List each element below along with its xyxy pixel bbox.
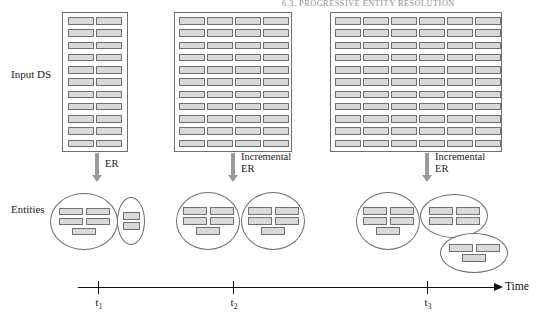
record-box xyxy=(263,17,289,25)
record-box xyxy=(363,42,389,50)
record-box xyxy=(96,17,122,25)
record-box xyxy=(391,115,417,123)
record-box xyxy=(419,54,445,62)
record-box xyxy=(59,208,83,216)
record-box xyxy=(391,103,417,111)
entity-records xyxy=(421,195,487,237)
entity-group-t3-1 xyxy=(356,192,420,250)
record-box xyxy=(391,127,417,135)
arrow-shaft xyxy=(95,153,98,175)
record-box xyxy=(475,17,501,25)
dataset-column xyxy=(446,17,474,147)
entity-record-row xyxy=(363,217,414,225)
record-box xyxy=(235,115,261,123)
record-box xyxy=(72,228,96,236)
record-box xyxy=(363,140,389,148)
record-box xyxy=(391,54,417,62)
record-box xyxy=(235,42,261,50)
record-box xyxy=(391,42,417,50)
record-box xyxy=(447,115,473,123)
arrow-head-icon xyxy=(422,175,432,182)
record-box xyxy=(335,17,361,25)
entity-record-row xyxy=(429,207,480,215)
record-box xyxy=(235,91,261,99)
dataset-column xyxy=(234,17,262,147)
entity-record-row xyxy=(363,207,414,215)
record-box xyxy=(391,29,417,37)
entity-record-row xyxy=(248,207,299,215)
dataset-column xyxy=(362,17,390,147)
entity-records xyxy=(177,193,239,249)
record-box xyxy=(447,66,473,74)
record-box xyxy=(179,91,205,99)
record-box xyxy=(456,217,480,225)
record-box xyxy=(207,42,233,50)
figure-progressive-entity-resolution: 6.3. PROGRESSIVE ENTITY RESOLUTION Input… xyxy=(0,0,539,321)
record-box xyxy=(391,66,417,74)
record-box xyxy=(207,29,233,37)
record-box xyxy=(96,91,122,99)
record-box xyxy=(183,207,207,215)
record-box xyxy=(235,66,261,74)
record-box xyxy=(335,42,361,50)
record-box xyxy=(335,91,361,99)
record-box xyxy=(447,17,473,25)
record-box xyxy=(96,29,122,37)
record-box xyxy=(335,78,361,86)
record-box xyxy=(475,54,501,62)
timeline-tick-label-t2: t2 xyxy=(231,296,238,311)
record-box xyxy=(207,140,233,148)
record-box xyxy=(391,78,417,86)
record-box xyxy=(447,103,473,111)
dataset-column xyxy=(418,17,446,147)
record-box xyxy=(179,103,205,111)
record-box xyxy=(419,17,445,25)
timeline-tick-t3 xyxy=(427,281,428,294)
record-box xyxy=(96,115,122,123)
record-box xyxy=(207,115,233,123)
record-box xyxy=(335,103,361,111)
record-box xyxy=(447,91,473,99)
record-box xyxy=(96,54,122,62)
record-box xyxy=(447,54,473,62)
record-box xyxy=(96,103,122,111)
record-box xyxy=(248,217,272,225)
record-box xyxy=(462,254,486,262)
record-box xyxy=(207,17,233,25)
record-box xyxy=(68,78,94,86)
record-box xyxy=(207,78,233,86)
record-box xyxy=(363,103,389,111)
record-box xyxy=(419,140,445,148)
record-box xyxy=(390,217,414,225)
record-box xyxy=(475,66,501,74)
entity-record-row xyxy=(123,212,140,220)
entity-record-row xyxy=(248,217,299,225)
dataset-column xyxy=(95,17,123,147)
arrow-shaft xyxy=(425,153,428,175)
record-box xyxy=(475,115,501,123)
record-box xyxy=(263,42,289,50)
record-box xyxy=(335,66,361,74)
record-box xyxy=(363,17,389,25)
record-box xyxy=(363,217,387,225)
row-label-input-ds: Input DS xyxy=(11,68,51,80)
row-label-entities: Entities xyxy=(11,203,45,215)
record-box xyxy=(207,127,233,135)
record-box xyxy=(475,103,501,111)
timeline-tick-t2 xyxy=(233,281,234,294)
record-box xyxy=(179,42,205,50)
entity-group-t2-1 xyxy=(176,192,240,250)
record-box xyxy=(207,91,233,99)
record-box xyxy=(447,78,473,86)
record-box xyxy=(179,66,205,74)
dataset-column xyxy=(178,17,206,147)
record-box xyxy=(179,29,205,37)
record-box xyxy=(449,244,473,252)
entity-record-row xyxy=(449,244,500,252)
dataset-column xyxy=(390,17,418,147)
entity-group-t3-2 xyxy=(420,194,488,238)
record-box xyxy=(390,207,414,215)
record-box xyxy=(210,217,234,225)
record-box xyxy=(261,227,285,235)
entity-records xyxy=(441,234,507,272)
